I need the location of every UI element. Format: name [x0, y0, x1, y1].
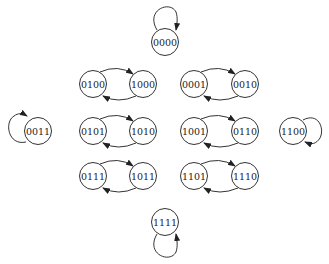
state-node-0010: 0010: [232, 71, 259, 98]
edge-1011-0111: [103, 188, 136, 192]
state-label: 1011: [131, 171, 155, 182]
edge-0110-1001: [204, 143, 238, 147]
state-label: 1100: [281, 126, 305, 137]
edge-1110-1101: [204, 188, 238, 192]
edge-1001-0110: [201, 115, 235, 121]
state-node-1011: 1011: [130, 163, 157, 190]
state-node-0111: 0111: [80, 163, 107, 190]
state-label: 1000: [131, 79, 155, 90]
self-loop-0000: [154, 7, 177, 30]
state-label: 1110: [233, 171, 257, 182]
edge-0101-1010: [100, 115, 133, 121]
state-node-1101: 1101: [181, 163, 208, 190]
self-loop-1111: [154, 234, 177, 257]
edge-0111-1011: [100, 160, 133, 166]
state-diagram: 0000 0100 1000 0001 0010 0011 0101 1010 …: [0, 0, 329, 264]
state-node-0000: 0000: [152, 29, 179, 56]
state-label: 0010: [233, 79, 257, 90]
edge-1010-0101: [103, 143, 136, 147]
edge-1000-0100: [103, 96, 136, 100]
state-label: 0110: [233, 126, 257, 137]
state-node-0100: 0100: [80, 71, 107, 98]
edge-0001-0010: [201, 68, 235, 74]
state-label: 0011: [26, 126, 50, 137]
state-label: 0100: [81, 79, 105, 90]
state-label: 0000: [153, 37, 177, 48]
state-node-0110: 0110: [232, 118, 259, 145]
state-label: 0001: [182, 79, 206, 90]
state-node-1110: 1110: [232, 163, 259, 190]
state-label: 1010: [131, 126, 155, 137]
state-node-1111: 1111: [152, 209, 179, 236]
state-label: 0101: [81, 126, 105, 137]
state-label: 0111: [81, 171, 105, 182]
state-node-1100: 1100: [280, 118, 307, 145]
edge-0100-1000: [100, 68, 133, 74]
state-node-1010: 1010: [130, 118, 157, 145]
state-label: 1101: [182, 171, 206, 182]
state-node-0001: 0001: [181, 71, 208, 98]
state-node-0011: 0011: [25, 118, 52, 145]
edge-1101-1110: [201, 160, 235, 166]
self-loop-0011: [9, 114, 27, 143]
state-node-1001: 1001: [181, 118, 208, 145]
state-label: 1111: [153, 217, 177, 228]
state-node-1000: 1000: [130, 71, 157, 98]
state-label: 1001: [182, 126, 206, 137]
state-node-0101: 0101: [80, 118, 107, 145]
edge-0010-0001: [204, 96, 238, 100]
